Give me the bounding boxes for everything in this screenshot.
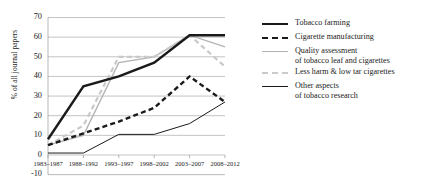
legend-label: Tobacco farming xyxy=(295,18,350,28)
x-axis-tick-marks xyxy=(48,155,225,158)
line-chart: % of all journal papers 706050403020100-… xyxy=(0,0,440,182)
legend-label: Other aspects of tobacco research xyxy=(295,81,358,100)
legend-item-1[interactable]: Tobacco farming xyxy=(262,18,440,30)
legend-item-3[interactable]: Quality assessment of tobacco leaf and c… xyxy=(262,46,440,65)
legend-item-2[interactable]: Cigarette manufacturing xyxy=(262,32,440,44)
legend-label: Cigarette manufacturing xyxy=(295,32,374,42)
legend-item-5[interactable]: Other aspects of tobacco research xyxy=(262,81,440,100)
legend-label: Quality assessment of tobacco leaf and c… xyxy=(295,46,390,65)
legend-swatch-dash-gray-icon xyxy=(262,67,288,79)
legend: Tobacco farmingCigarette manufacturingQu… xyxy=(262,18,440,102)
legend-label: Less harm & low tar cigarettes xyxy=(295,67,395,77)
legend-swatch-solid-thin-icon xyxy=(262,81,288,93)
x-tick-2008-2012: 2008–2012 xyxy=(201,160,249,167)
legend-swatch-solid-gray-icon xyxy=(262,46,288,58)
legend-swatch-dash-thick-icon xyxy=(262,32,288,44)
legend-item-4[interactable]: Less harm & low tar cigarettes xyxy=(262,67,440,79)
legend-swatch-solid-thick-icon xyxy=(262,18,288,30)
